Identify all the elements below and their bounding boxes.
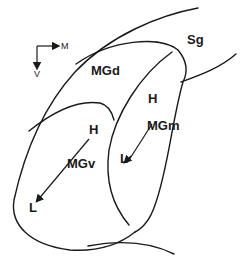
region-label-sg: Sg <box>187 33 204 46</box>
region-label-mgv: MGv <box>67 157 95 170</box>
axis-m-label: M <box>61 42 69 51</box>
mgv-upper-boundary <box>29 102 114 131</box>
diagram-canvas <box>0 0 240 259</box>
sg-boundary <box>181 54 236 82</box>
mgv-low-label: L <box>29 201 37 214</box>
mgm-high-label: H <box>148 92 157 105</box>
region-label-mgm: MGm <box>147 119 180 132</box>
mgv-high-label: H <box>89 123 98 136</box>
region-label-mgd: MGd <box>91 64 120 77</box>
axis-v-label: V <box>34 70 40 79</box>
mgm-low-label: L <box>120 152 128 165</box>
